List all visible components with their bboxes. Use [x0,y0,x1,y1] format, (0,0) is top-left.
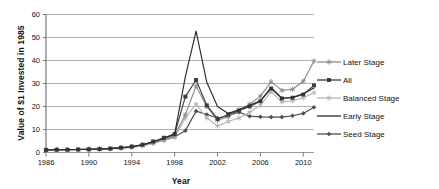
y-tick-label: 30 [18,79,40,88]
legend-item-balanced-stage[interactable]: Balanced Stage [316,89,436,107]
series-line [46,92,314,150]
y-tick-label: 0 [18,148,40,157]
legend-swatch-icon [316,73,342,87]
legend-item-all[interactable]: All [316,71,436,89]
data-point-marker [216,117,220,121]
legend-item-seed-stage[interactable]: Seed Stage [316,125,436,143]
y-tick-label: 20 [18,102,40,111]
series-all [44,78,316,152]
x-tick-label: 2010 [286,158,320,167]
data-point-marker [194,109,199,114]
x-tick-label: 2002 [201,158,235,167]
legend-swatch-icon [316,55,342,69]
data-point-marker [247,110,252,115]
series-early-stage [46,31,314,150]
data-point-marker [194,78,198,82]
x-tick-label: 1998 [158,158,192,167]
data-point-marker [280,115,285,120]
y-tick-label: 10 [18,125,40,134]
legend-swatch-icon [316,91,342,105]
data-point-marker [183,128,188,133]
legend-swatch-icon [316,109,342,123]
data-point-marker [183,95,187,99]
data-point-marker [301,111,306,116]
y-tick-label: 60 [18,10,40,19]
x-tick-label: 1994 [115,158,149,167]
y-tick-label: 50 [18,33,40,42]
series-balanced-stage [44,89,317,153]
data-point-marker [205,103,209,107]
legend-swatch-icon [316,127,342,141]
x-tick-label: 1986 [29,158,63,167]
chart-legend: Later StageAllBalanced StageEarly StageS… [316,53,436,143]
legend-item-early-stage[interactable]: Early Stage [316,107,436,125]
x-tick-label: 1990 [72,158,106,167]
y-tick-label: 40 [18,56,40,65]
chart-container: Value of $1 Invested in 1985 Year 010203… [0,0,439,189]
data-point-marker [258,115,263,120]
legend-item-label: All [342,76,352,85]
x-axis-title: Year [45,176,317,186]
legend-item-later-stage[interactable]: Later Stage [316,53,436,71]
x-tick-label: 2006 [243,158,277,167]
series-line [46,31,314,150]
legend-item-label: Later Stage [342,58,384,67]
data-point-marker [290,113,295,118]
legend-item-label: Seed Stage [342,130,385,139]
legend-item-label: Balanced Stage [342,94,400,103]
legend-item-label: Early Stage [342,112,384,121]
data-point-marker [269,115,274,120]
